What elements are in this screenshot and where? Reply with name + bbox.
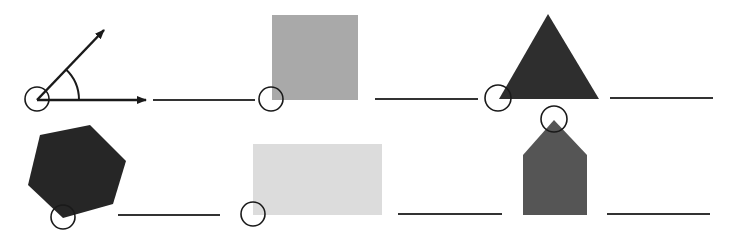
example-angle	[25, 30, 146, 111]
angle-arc	[66, 69, 80, 100]
triangle	[499, 14, 599, 99]
square-shape	[259, 15, 358, 111]
hexagon	[28, 125, 126, 218]
hexagon-shape	[28, 125, 126, 229]
angle-diagonal-ray-arrow	[37, 30, 104, 100]
pentagon	[523, 120, 587, 215]
rectangle-shape	[241, 144, 382, 226]
triangle-shape	[485, 14, 599, 111]
square	[272, 15, 358, 100]
worksheet-canvas	[0, 0, 739, 244]
pentagon-shape	[523, 106, 587, 215]
rectangle	[253, 144, 382, 215]
